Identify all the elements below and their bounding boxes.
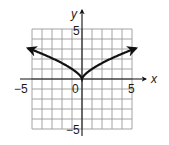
x-axis-label: x [150,72,158,86]
y-tick-min: −5 [66,123,80,137]
graph: x y −5 0 5 5 −5 [0,0,169,145]
y-axis-label: y [70,7,78,21]
x-tick-max: 5 [128,82,135,96]
x-tick-min: −5 [14,82,28,96]
x-tick-zero: 0 [72,82,79,96]
y-tick-max: 5 [73,24,80,38]
